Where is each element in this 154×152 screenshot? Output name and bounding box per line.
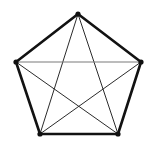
graph-vertex-left [13, 59, 18, 64]
graph-vertex-right [138, 59, 143, 64]
complete-graph-k5 [0, 0, 154, 152]
graph-vertex-bottom-left [37, 131, 42, 136]
figure-background [0, 0, 154, 152]
graph-vertex-top [75, 11, 80, 16]
figure-root [0, 0, 154, 152]
graph-vertex-bottom-right [115, 131, 120, 136]
